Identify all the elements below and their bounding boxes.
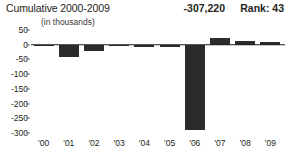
- chart-card: Cumulative 2000-2009 (in thousands) -307…: [0, 0, 288, 161]
- cumulative-total-value: -307,220: [184, 2, 225, 14]
- y-axis-tick-mark: [26, 44, 30, 45]
- x-axis-tick-label: '02: [88, 138, 99, 148]
- y-axis-tick-mark: [26, 103, 30, 104]
- x-axis-tick-label: '03: [114, 138, 125, 148]
- bar: [59, 45, 79, 57]
- page-title: Cumulative 2000-2009: [6, 2, 110, 14]
- y-axis-tick-mark: [26, 59, 30, 60]
- rank-badge: Rank: 43: [240, 2, 284, 14]
- x-axis-tick-label: '06: [189, 138, 200, 148]
- y-axis-tick-mark: [26, 133, 30, 134]
- x-axis-tick-label: '07: [214, 138, 225, 148]
- y-axis-tick-mark: [26, 88, 30, 89]
- y-axis-tick-mark: [26, 30, 30, 31]
- x-axis-tick-label: '08: [240, 138, 251, 148]
- x-axis-tick-label: '05: [164, 138, 175, 148]
- x-axis-tick-label: '00: [38, 138, 49, 148]
- x-axis-tick-label: '01: [63, 138, 74, 148]
- bar: [185, 45, 205, 130]
- y-axis-tick-mark: [26, 74, 30, 75]
- x-axis-tick-label: '04: [139, 138, 150, 148]
- x-axis-tick-label: '09: [265, 138, 276, 148]
- bar: [84, 45, 104, 51]
- units-label: (in thousands): [41, 17, 95, 27]
- y-axis-tick-mark: [26, 118, 30, 119]
- bar-chart-plot: 500-50-100-150-200-250-300 '00'01'02'03'…: [31, 30, 283, 133]
- zero-baseline: [31, 44, 285, 46]
